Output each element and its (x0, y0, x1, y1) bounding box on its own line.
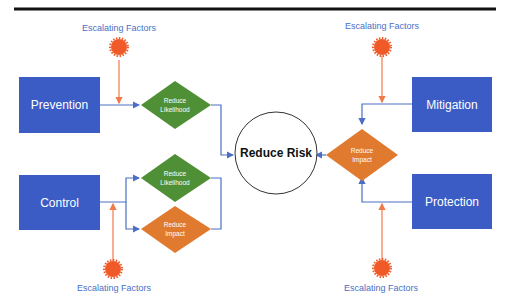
escalating-factors-label-top-right: Escalating Factors (332, 21, 432, 31)
mitigation-box: Mitigation (412, 77, 492, 132)
escalating-factors-label-bottom-right: Escalating Factors (331, 283, 431, 293)
protection-box: Protection (412, 174, 492, 229)
diamond-left-bottom-label: Reduce Impact (155, 220, 195, 238)
protection-label: Protection (425, 195, 479, 209)
prevention-box: Prevention (19, 77, 100, 133)
prevention-label: Prevention (31, 98, 88, 112)
reduce-risk-label: Reduce Risk (231, 146, 321, 160)
escalating-factors-label-bottom-left: Escalating Factors (64, 283, 164, 293)
mitigation-label: Mitigation (426, 98, 477, 112)
diamond-right-label: Reduce Impact (342, 146, 382, 164)
escalating-factors-label-top-left: Escalating Factors (69, 23, 169, 33)
control-box: Control (19, 175, 100, 230)
diamond-left-top-label: Reduce Likelihood (155, 96, 195, 114)
diamond-left-mid-label: Reduce Likelihood (155, 169, 195, 187)
control-label: Control (40, 196, 79, 210)
